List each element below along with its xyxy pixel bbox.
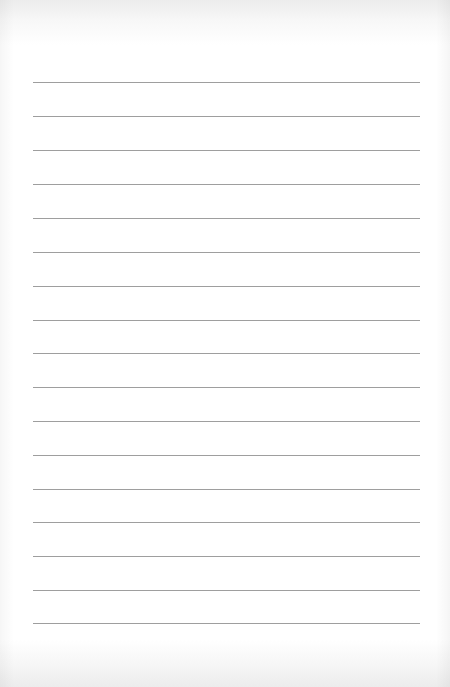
ruled-line <box>33 421 420 422</box>
lined-paper-page <box>0 0 450 687</box>
ruled-line <box>33 82 420 83</box>
ruled-line <box>33 455 420 456</box>
ruled-line <box>33 252 420 253</box>
ruled-line <box>33 556 420 557</box>
ruled-line <box>33 623 420 624</box>
ruled-line <box>33 116 420 117</box>
ruled-line <box>33 218 420 219</box>
ruled-line <box>33 590 420 591</box>
ruled-line <box>33 353 420 354</box>
ruled-line <box>33 320 420 321</box>
ruled-line <box>33 184 420 185</box>
ruled-line <box>33 489 420 490</box>
ruled-line <box>33 387 420 388</box>
ruled-line <box>33 150 420 151</box>
ruled-line <box>33 522 420 523</box>
ruled-line <box>33 286 420 287</box>
